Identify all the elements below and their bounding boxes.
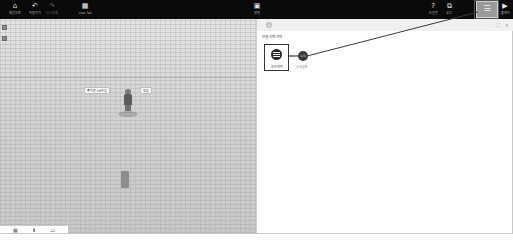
home-button[interactable]: ⌂ 처음으로 <box>4 2 26 15</box>
bottom-border <box>0 233 513 234</box>
object-card-label: 오브젝트 <box>271 65 283 69</box>
close-icon[interactable]: × <box>505 22 509 28</box>
code-label: 코딩 <box>446 11 452 15</box>
pillar-object[interactable] <box>121 171 129 188</box>
expand-icon[interactable]: ⛶ <box>496 22 500 28</box>
help-icon: ? <box>431 2 435 11</box>
app-window: ⌂ 처음으로 ↶ 되돌리기 ↷ 다시실행 ▦ View Tab ▣ 장면 ? 도… <box>0 0 513 241</box>
scene-icon: ▣ <box>254 2 261 11</box>
speech-bubble-right[interactable]: 정답 <box>140 87 152 94</box>
redo-icon: ↷ <box>49 2 55 11</box>
add-icon[interactable]: + <box>266 22 272 28</box>
horizon-line <box>0 77 256 78</box>
help-label: 도움말 <box>429 11 438 15</box>
view-tab-button[interactable]: ▦ View Tab <box>74 2 96 15</box>
list-icon: ☰ <box>483 5 490 14</box>
play-label: 플레이 <box>501 11 510 15</box>
character-legs <box>125 105 131 111</box>
layer-tool-icon[interactable] <box>2 36 7 41</box>
script-label: 스크립트 <box>296 65 308 69</box>
screen-view-icon[interactable]: ▭ <box>50 227 55 233</box>
section-title: 모델 선택 선택 <box>262 35 282 40</box>
play-icon: ▶ <box>502 2 507 11</box>
view-mode-tabs: ▦ ⬆ ▭ <box>0 225 68 233</box>
object-select-panel: + ⛶ × 모델 선택 선택 오브젝트 1/3 스크립트 <box>256 19 513 233</box>
3d-viewport[interactable]: 좋가운 VR수업 정답 <box>0 19 256 233</box>
top-toolbar: ⌂ 처음으로 ↶ 되돌리기 ↷ 다시실행 ▦ View Tab ▣ 장면 ? 도… <box>0 0 513 19</box>
redo-label: 다시실행 <box>46 11 58 15</box>
code-button[interactable]: ⧉ 코딩 <box>438 2 460 15</box>
redo-button[interactable]: ↷ 다시실행 <box>41 2 63 15</box>
play-button[interactable]: ▶ 플레이 <box>494 2 513 15</box>
object-list-icon <box>271 49 282 60</box>
camera-tool-icon[interactable] <box>2 25 7 30</box>
home-label: 처음으로 <box>9 11 21 15</box>
panel-header: + ⛶ × <box>257 19 513 31</box>
viewport-side-tools <box>2 25 7 41</box>
home-icon: ⌂ <box>13 2 17 11</box>
person-view-icon[interactable]: ⬆ <box>32 227 36 233</box>
grid-view-icon[interactable]: ▦ <box>13 227 18 233</box>
undo-icon: ↶ <box>32 2 38 11</box>
scene-label: 장면 <box>254 11 260 15</box>
step-badge: 1/3 <box>298 51 308 61</box>
speech-bubble-left[interactable]: 좋가운 VR수업 <box>84 87 110 94</box>
scene-button[interactable]: ▣ 장면 <box>246 2 268 15</box>
object-card[interactable]: 오브젝트 <box>264 44 289 71</box>
undo-label: 되돌리기 <box>29 11 41 15</box>
character-model[interactable] <box>122 89 134 113</box>
view-tab-label: View Tab <box>78 11 91 15</box>
grid-icon: ▦ <box>82 2 89 11</box>
code-icon: ⧉ <box>447 2 452 11</box>
